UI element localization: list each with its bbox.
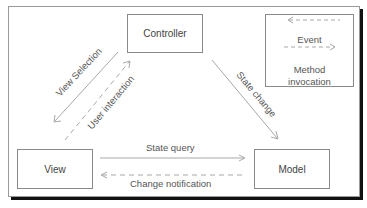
change-notification-label: Change notification [130,178,211,189]
state-query-arrow-icon [100,155,245,161]
state-query-label: State query [146,142,195,153]
view-selection-label: View Selection [53,45,103,98]
legend-method-arrow-icon [284,44,335,50]
legend-event-arrow-icon [288,17,340,23]
user-interaction-label: User interaction [85,73,136,131]
diagram-arrows: View Selection User interaction State ch… [0,0,367,208]
